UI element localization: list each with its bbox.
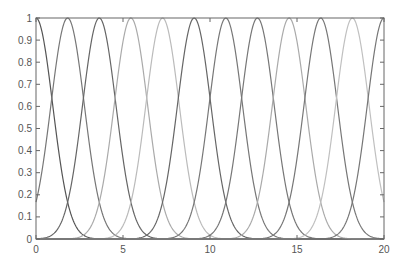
curve-mf7 <box>36 18 384 239</box>
curve-mf6 <box>36 18 384 239</box>
x-tick-label: 0 <box>33 244 39 255</box>
curve-mf10 <box>36 18 384 239</box>
y-tick-label: 0.8 <box>18 57 32 68</box>
curve-mf8 <box>36 18 384 239</box>
y-tick-label: 0 <box>26 234 32 245</box>
x-tick-label: 15 <box>291 244 303 255</box>
curve-mf2 <box>36 18 384 239</box>
y-tick-label: 0.3 <box>18 167 32 178</box>
chart: 05101520 00.10.20.30.40.50.60.70.80.91 <box>0 0 402 265</box>
curve-mf4 <box>36 18 384 239</box>
y-tick-label: 1 <box>26 13 32 24</box>
y-tick-label: 0.9 <box>18 35 32 46</box>
y-tick-label: 0.4 <box>18 145 32 156</box>
x-tick-label: 10 <box>204 244 216 255</box>
y-tick-label: 0.7 <box>18 79 32 90</box>
y-tick-label: 0.1 <box>18 211 32 222</box>
y-tick-label: 0.6 <box>18 101 32 112</box>
curve-mf1 <box>36 18 384 239</box>
curve-mf11 <box>36 18 384 239</box>
curve-mf3 <box>36 18 384 239</box>
curve-mf5 <box>36 18 384 239</box>
curve-mf12 <box>36 18 384 239</box>
x-axis: 05101520 <box>33 18 390 255</box>
x-tick-label: 20 <box>378 244 390 255</box>
y-tick-label: 0.5 <box>18 123 32 134</box>
x-tick-label: 5 <box>120 244 126 255</box>
curve-mf9 <box>36 18 384 239</box>
membership-curves <box>36 18 384 239</box>
y-tick-label: 0.2 <box>18 189 32 200</box>
axes-box <box>36 18 384 239</box>
